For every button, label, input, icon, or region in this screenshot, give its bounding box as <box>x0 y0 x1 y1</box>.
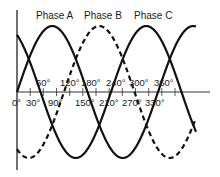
label-0deg: 0° <box>12 97 21 108</box>
label-30deg: 30° <box>26 97 41 108</box>
label-90deg: 90° <box>48 97 63 108</box>
label-120deg: 120° <box>60 77 80 88</box>
label-60deg: 60° <box>36 77 51 88</box>
label-180deg: 180° <box>81 77 101 88</box>
label-330deg: 330° <box>145 97 165 108</box>
label-210deg: 210° <box>99 97 119 108</box>
phase-a-label: Phase A <box>36 10 74 21</box>
three-phase-diagram: Phase A Phase B Phase C 60° 120° 180° 24… <box>0 0 220 177</box>
label-300deg: 300° <box>129 77 149 88</box>
phase-b-label: Phase B <box>84 10 122 21</box>
label-270deg: 270° <box>122 97 142 108</box>
label-360deg: 360° <box>154 77 174 88</box>
label-150deg: 150° <box>75 97 95 108</box>
label-240deg: 240° <box>106 77 126 88</box>
phase-c-label: Phase C <box>134 10 172 21</box>
